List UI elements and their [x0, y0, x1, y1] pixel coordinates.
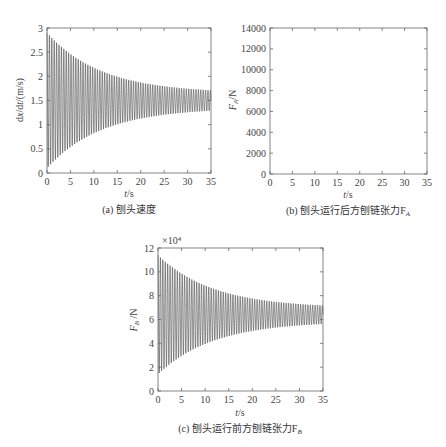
y-tick-label: 0 [149, 386, 154, 397]
chart-c: 05101520253035024681012 ×10⁴ FB /N t/s (… [128, 235, 328, 436]
x-tick-label: 0 [268, 177, 273, 188]
y-tick-label: 6000 [246, 106, 266, 117]
chart-b-caption: (b) 刨头运行后方刨链张力FA [286, 204, 411, 218]
y-tick-label: 2 [149, 362, 154, 373]
x-tick-label: 5 [290, 177, 295, 188]
chart-a-plot [47, 33, 211, 167]
y-tick-label: 12000 [241, 43, 266, 54]
chart-c-plot [158, 255, 323, 373]
series-line [47, 33, 211, 167]
x-tick-label: 35 [318, 394, 328, 405]
x-tick-label: 30 [400, 177, 410, 188]
y-tick-label: 1 [38, 119, 43, 130]
chart-b-axes-frame [270, 28, 427, 174]
x-tick-label: 0 [156, 394, 161, 405]
y-tick-label: 4000 [246, 127, 266, 138]
x-tick-label: 5 [68, 176, 73, 187]
chart-c-ylabel: FB /N [128, 309, 141, 333]
x-tick-label: 20 [136, 176, 146, 187]
y-tick-label: 2 [38, 71, 43, 82]
chart-a: 0510152025303500.511.522.53 dx/dt/(m/s) … [14, 23, 216, 217]
x-tick-label: 15 [112, 176, 122, 187]
x-tick-label: 15 [332, 177, 342, 188]
figure: 0510152025303500.511.522.53 dx/dt/(m/s) … [0, 0, 446, 447]
y-tick-label: 14000 [241, 23, 266, 34]
chart-a-caption: (a) 刨头速度 [102, 203, 156, 216]
y-tick-label: 0 [38, 168, 43, 179]
y-tick-label: 8000 [246, 85, 266, 96]
chart-b: 0510152025303502000400060008000100001200… [227, 23, 432, 219]
y-tick-label: 12 [144, 243, 154, 254]
y-tick-label: 6 [149, 314, 154, 325]
chart-a-ylabel: dx/dt/(m/s) [14, 78, 26, 122]
x-tick-label: 30 [294, 394, 304, 405]
x-tick-label: 10 [310, 177, 320, 188]
x-tick-label: 35 [422, 177, 432, 188]
x-tick-label: 10 [89, 176, 99, 187]
y-tick-label: 0 [261, 169, 266, 180]
x-tick-label: 35 [206, 176, 216, 187]
x-tick-label: 25 [159, 176, 169, 187]
x-tick-label: 25 [271, 394, 281, 405]
y-tick-label: 2.5 [31, 47, 44, 58]
x-tick-label: 5 [179, 394, 184, 405]
x-tick-label: 10 [200, 394, 210, 405]
x-tick-label: 0 [45, 176, 50, 187]
x-tick-label: 30 [183, 176, 193, 187]
y-tick-label: 10 [144, 266, 154, 277]
y-tick-label: 4 [149, 338, 154, 349]
x-tick-label: 15 [224, 394, 234, 405]
y-tick-label: 1.5 [31, 95, 44, 106]
y-tick-label: 8 [149, 290, 154, 301]
x-tick-label: 20 [355, 177, 365, 188]
chart-b-ylabel: FA/N [227, 90, 240, 111]
chart-c-y-multiplier: ×10⁴ [162, 235, 182, 246]
chart-b-xlabel: t/s [343, 189, 353, 200]
chart-c-xlabel: t/s [235, 407, 245, 418]
y-tick-label: 0.5 [31, 143, 44, 154]
x-tick-label: 25 [377, 177, 387, 188]
y-tick-label: 10000 [241, 64, 266, 75]
y-tick-label: 2000 [246, 148, 266, 159]
x-tick-label: 20 [247, 394, 257, 405]
y-tick-label: 3 [38, 23, 43, 34]
chart-a-xlabel: t/s [124, 188, 134, 199]
series-line [158, 255, 323, 373]
chart-c-caption: (c) 刨头运行前方刨链张力FB [178, 422, 302, 436]
